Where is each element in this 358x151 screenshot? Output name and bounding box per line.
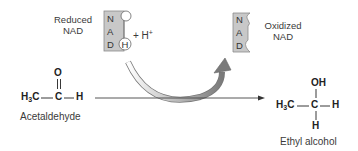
single-bond-icon [314, 89, 318, 98]
ethyl-methyl-c: C [287, 99, 294, 110]
acetaldehyde-hydrogen: H [76, 91, 83, 102]
acetaldehyde-methyl-c: C [32, 91, 39, 102]
acetaldehyde-carbon: C [55, 91, 62, 102]
ethyl-alcohol-formula: H3C [276, 99, 294, 111]
ethyl-alcohol-right-h: H [332, 99, 339, 110]
double-bond-icon [54, 79, 64, 91]
single-bond-icon [64, 96, 74, 100]
ethyl-alcohol-name: Ethyl alcohol [280, 136, 337, 147]
acetaldehyde-formula: H3C [21, 91, 39, 103]
ethyl-alcohol-bottom-h: H [312, 120, 319, 131]
single-bond-icon [320, 104, 330, 108]
acetaldehyde-name: Acetaldehyde [20, 111, 81, 122]
ethyl-alcohol-carbon: C [311, 99, 318, 110]
ethyl-alcohol-oh: OH [311, 77, 326, 88]
single-bond-icon [314, 111, 318, 120]
single-bond-icon [297, 104, 309, 108]
single-bond-icon [41, 96, 53, 100]
acetaldehyde-oxygen: O [54, 67, 62, 78]
